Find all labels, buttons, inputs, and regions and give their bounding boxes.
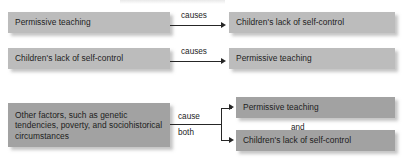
row-3-effect-box-bottom: Children's lack of self-control — [236, 130, 395, 151]
row-3-split-line — [221, 108, 222, 141]
row-3-trunk-line — [170, 124, 222, 125]
row-1-effect-box: Children's lack of self-control — [229, 12, 395, 33]
row-3-branch-bottom-arrow-head — [229, 137, 234, 143]
row-2-arrow-line — [170, 61, 223, 62]
row-1-arrow-line — [170, 25, 223, 26]
row-3-relation-label-top: cause — [178, 112, 200, 121]
row-2-relation-label: causes — [181, 47, 207, 56]
row-3-branch-top-arrow-head — [229, 104, 234, 110]
row-1-arrow-head — [221, 22, 226, 28]
row-3-cause-box: Other factors, such as genetic tendencie… — [8, 103, 170, 147]
row-1-relation-label: causes — [181, 11, 207, 20]
row-2-arrow-head — [221, 58, 226, 64]
row-2-cause-box: Children's lack of self-control — [8, 48, 170, 69]
causal-diagram: Permissive teaching causes Children's la… — [0, 0, 405, 167]
row-2-effect-box: Permissive teaching — [229, 48, 395, 69]
row-3-effect-box-top: Permissive teaching — [236, 97, 395, 118]
row-1-cause-box: Permissive teaching — [8, 12, 170, 33]
row-3-relation-label-bottom: both — [178, 128, 194, 137]
top-edge-artifact — [120, 0, 225, 4]
